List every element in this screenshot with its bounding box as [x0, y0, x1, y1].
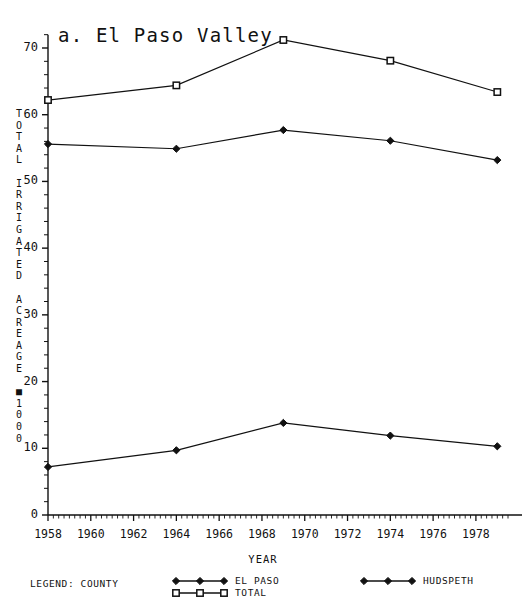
legend-marker-filled-diamond [170, 576, 230, 586]
legend-marker-open-square [170, 588, 230, 598]
chart-figure: a. El Paso Valley TOTAL IRRIGATED ACREAG… [0, 0, 526, 602]
legend-item-el-paso: EL PASO [170, 576, 279, 586]
legend-item-total: TOTAL [170, 588, 267, 598]
legend-item-hudspeth: HUDSPETH [358, 576, 474, 586]
legend-title: LEGEND: COUNTY [30, 578, 118, 589]
plot-area [0, 0, 526, 602]
legend-item-label: TOTAL [235, 588, 267, 598]
legend-item-label: EL PASO [235, 576, 279, 586]
chart-legend: LEGEND: COUNTY EL PASO TOTAL HUDSPETH [0, 572, 526, 600]
legend-marker-filled-diamond [358, 576, 418, 586]
legend-item-label: HUDSPETH [423, 576, 474, 586]
